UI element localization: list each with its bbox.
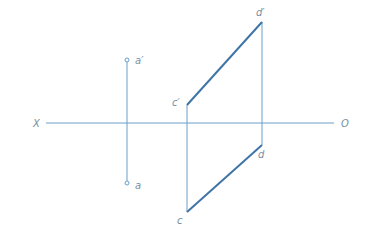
- label-c: c: [177, 215, 183, 226]
- label-c-prime: c′: [172, 97, 180, 108]
- segment-c-d: [187, 145, 262, 212]
- point-a: [125, 181, 129, 185]
- point-a-prime: [125, 58, 129, 62]
- axis-label-o: O: [341, 118, 349, 129]
- label-a-prime: a′: [135, 55, 144, 66]
- axis-label-x: X: [32, 118, 41, 129]
- label-a: a: [135, 180, 141, 191]
- label-d-prime: d′: [256, 7, 265, 18]
- label-d: d: [258, 149, 265, 160]
- segment-c-prime-d-prime: [187, 22, 262, 105]
- projection-diagram: X O a′ a c′ c d′ d: [0, 0, 375, 244]
